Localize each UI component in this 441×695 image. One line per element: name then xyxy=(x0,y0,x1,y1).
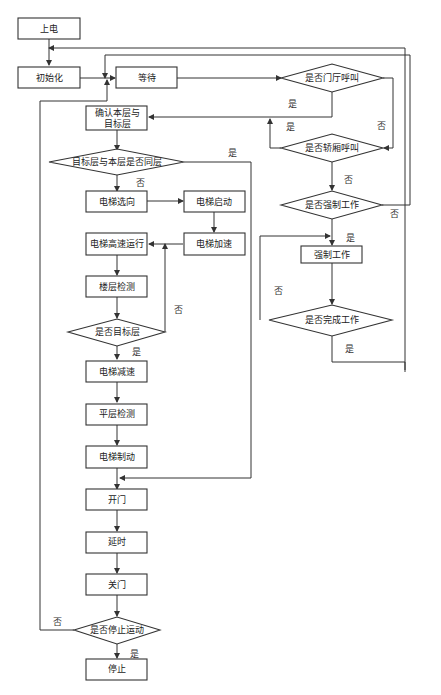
node-select-direction: 电梯选向 xyxy=(86,191,147,212)
node-forced-done: 是否完成工作 xyxy=(269,305,392,336)
node-stop-check: 是否停止运动 xyxy=(74,617,160,644)
node-label: 是否停止运动 xyxy=(90,624,144,635)
node-label: 关门 xyxy=(108,579,126,590)
label-same-yes: 是 xyxy=(228,148,237,158)
node-decelerate: 电梯减速 xyxy=(86,361,147,382)
node-label: 等待 xyxy=(138,72,156,83)
node-label: 初始化 xyxy=(36,72,63,83)
node-label: 是否目标层 xyxy=(95,326,140,337)
node-label: 电梯制动 xyxy=(99,451,135,462)
label-car-yes: 是 xyxy=(286,122,295,132)
node-is-target: 是否目标层 xyxy=(68,319,165,346)
edge-car-yes xyxy=(270,119,281,148)
node-stop: 停止 xyxy=(86,659,147,680)
label-car-no: 否 xyxy=(344,175,353,185)
node-label: 是否轿厢呼叫 xyxy=(305,142,359,153)
elevator-control-flowchart: 上电 初始化 等待 是否门厅呼叫 确认本层与 目标层 是否轿厢呼叫 目标层与本层… xyxy=(0,0,441,695)
node-start: 电梯启动 xyxy=(184,191,245,212)
node-level-detect: 平层检测 xyxy=(86,404,147,425)
label-done-no: 否 xyxy=(274,286,283,296)
node-label: 电梯启动 xyxy=(196,196,232,207)
node-label: 开门 xyxy=(108,494,126,505)
edge-hall-no xyxy=(383,78,393,148)
connectors xyxy=(40,39,410,658)
node-confirm-floor: 确认本层与 目标层 xyxy=(86,106,147,130)
label-same-no: 否 xyxy=(136,178,145,188)
node-open-door: 开门 xyxy=(86,489,147,510)
node-label: 延时 xyxy=(108,536,126,547)
node-label: 停止 xyxy=(108,663,126,674)
label-hall-no: 否 xyxy=(377,121,386,131)
label-target-no: 否 xyxy=(174,305,183,315)
label-stop-yes: 是 xyxy=(130,649,139,659)
node-label: 电梯高速运行 xyxy=(90,238,144,249)
node-accelerate: 电梯加速 xyxy=(184,233,245,255)
node-same-floor: 目标层与本层是否同层 xyxy=(49,149,184,175)
node-power-on: 上电 xyxy=(18,18,80,39)
label-target-yes: 是 xyxy=(132,347,141,357)
node-hall-call: 是否门厅呼叫 xyxy=(281,64,383,92)
node-label-line1: 确认本层与 xyxy=(95,107,140,118)
node-label: 电梯选向 xyxy=(99,196,135,207)
node-close-door: 关门 xyxy=(86,574,147,595)
node-label: 电梯减速 xyxy=(99,366,135,377)
node-init: 初始化 xyxy=(18,67,80,88)
label-hall-yes: 是 xyxy=(288,99,297,109)
node-label: 上电 xyxy=(40,23,58,34)
label-done-yes: 是 xyxy=(345,344,354,354)
node-car-call: 是否轿厢呼叫 xyxy=(281,134,383,162)
node-label: 强制工作 xyxy=(314,249,350,260)
node-label: 楼层检测 xyxy=(99,281,135,292)
node-label: 是否强制工作 xyxy=(305,199,359,210)
node-label: 是否完成工作 xyxy=(305,314,359,325)
node-label: 是否门厅呼叫 xyxy=(305,72,359,83)
label-stop-no: 否 xyxy=(53,617,62,627)
node-forced-work: 强制工作 xyxy=(301,246,362,263)
node-brake: 电梯制动 xyxy=(86,446,147,468)
node-label: 电梯加速 xyxy=(196,238,232,249)
node-label-line2: 目标层 xyxy=(104,118,131,129)
label-forced-yes: 是 xyxy=(346,233,355,243)
edge-hall-yes xyxy=(149,92,332,117)
node-label: 平层检测 xyxy=(99,408,135,419)
node-label: 目标层与本层是否同层 xyxy=(72,156,162,167)
node-wait: 等待 xyxy=(116,67,177,88)
edge-done-yes xyxy=(332,336,405,370)
node-delay: 延时 xyxy=(86,532,147,553)
label-forced-no: 否 xyxy=(390,209,399,219)
node-high-speed: 电梯高速运行 xyxy=(86,233,147,255)
node-forced-check: 是否强制工作 xyxy=(281,191,382,219)
node-floor-detect: 楼层检测 xyxy=(86,276,147,297)
